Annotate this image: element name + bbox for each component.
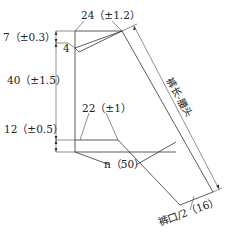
label-crotch-depth: 12（±0.5） [4,123,63,135]
label-top-width: 24（±1.2） [81,9,140,21]
dart-shape [68,31,122,52]
leader-lines [75,21,194,210]
label-dart: 4 [63,42,70,54]
pattern-diagram: 24（±1.2） 7（±0.3） 4 40（±1.5） 12（±0.5） 22（… [0,0,228,240]
label-waist-drop: 7（±0.3） [3,31,55,43]
label-thigh: n（50） [104,158,144,170]
label-upper-length: 40（±1.5） [7,74,66,86]
label-side-length: 裤长-腰头 [164,75,195,119]
label-hem: 裤口/2（16） [157,195,221,228]
panel-outline [75,31,213,205]
label-crotch-width: 22（±1） [82,102,131,114]
